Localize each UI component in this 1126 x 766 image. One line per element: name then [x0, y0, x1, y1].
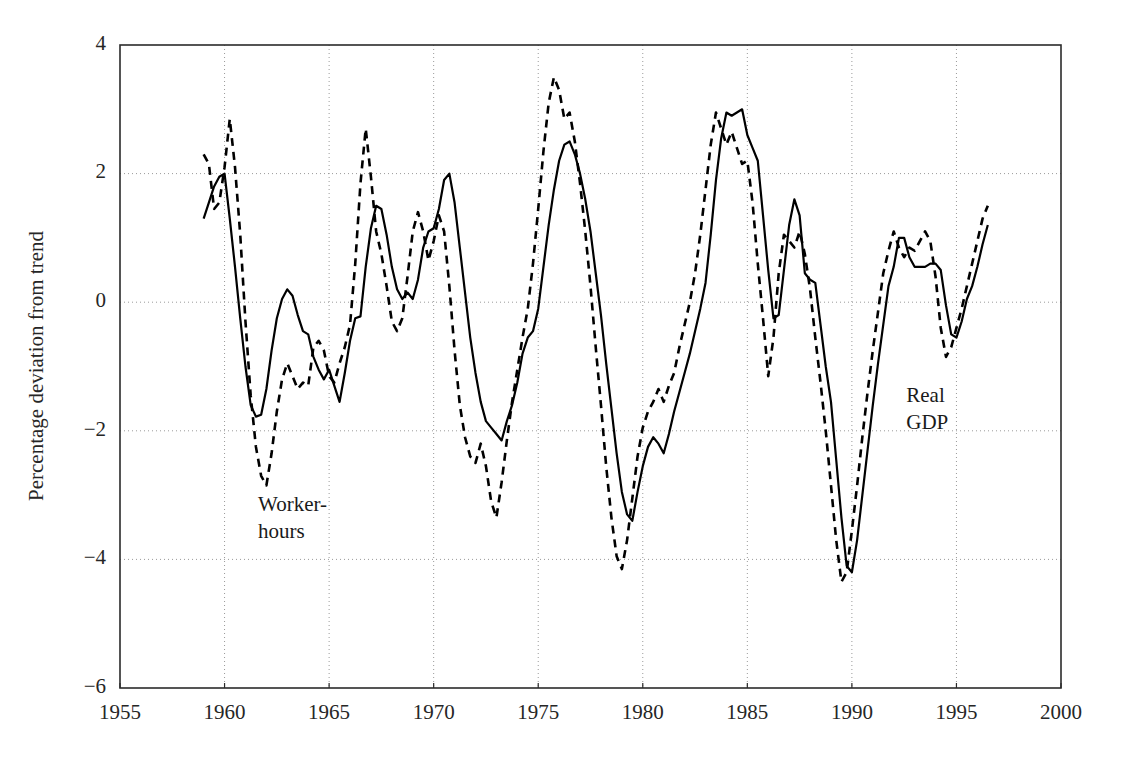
y-tick-label: −2: [84, 417, 106, 441]
x-tick-labels: 1955196019651970197519801985199019952000: [99, 700, 1082, 724]
business-cycle-line-chart: 420−2−4−6 195519601965197019751980198519…: [0, 0, 1126, 766]
annotation-line: hours: [258, 519, 305, 543]
y-tick-label: −6: [84, 674, 106, 698]
annotation-line: GDP: [906, 410, 948, 434]
y-tick-label: 0: [96, 288, 107, 312]
y-tick-label: 4: [96, 31, 107, 55]
x-tick-label: 1965: [308, 700, 350, 724]
y-axis-title-text: Percentage deviation from trend: [24, 231, 48, 501]
x-tick-label: 2000: [1040, 700, 1082, 724]
x-tick-label: 1980: [622, 700, 664, 724]
x-tick-label: 1995: [935, 700, 977, 724]
x-tick-label: 1955: [99, 700, 141, 724]
y-axis-title: Percentage deviation from trend: [24, 231, 48, 501]
annotation-line: Real: [906, 383, 945, 407]
x-tick-label: 1975: [517, 700, 559, 724]
annotation-line: Worker-: [258, 492, 327, 516]
y-tick-label: −4: [84, 545, 107, 569]
y-tick-labels: 420−2−4−6: [84, 31, 107, 698]
x-tick-label: 1985: [726, 700, 768, 724]
y-tick-label: 2: [96, 159, 107, 183]
chart-figure: 420−2−4−6 195519601965197019751980198519…: [0, 0, 1126, 766]
x-tick-label: 1990: [831, 700, 873, 724]
x-tick-label: 1960: [204, 700, 246, 724]
plot-background: [120, 45, 1061, 688]
x-tick-label: 1970: [413, 700, 455, 724]
